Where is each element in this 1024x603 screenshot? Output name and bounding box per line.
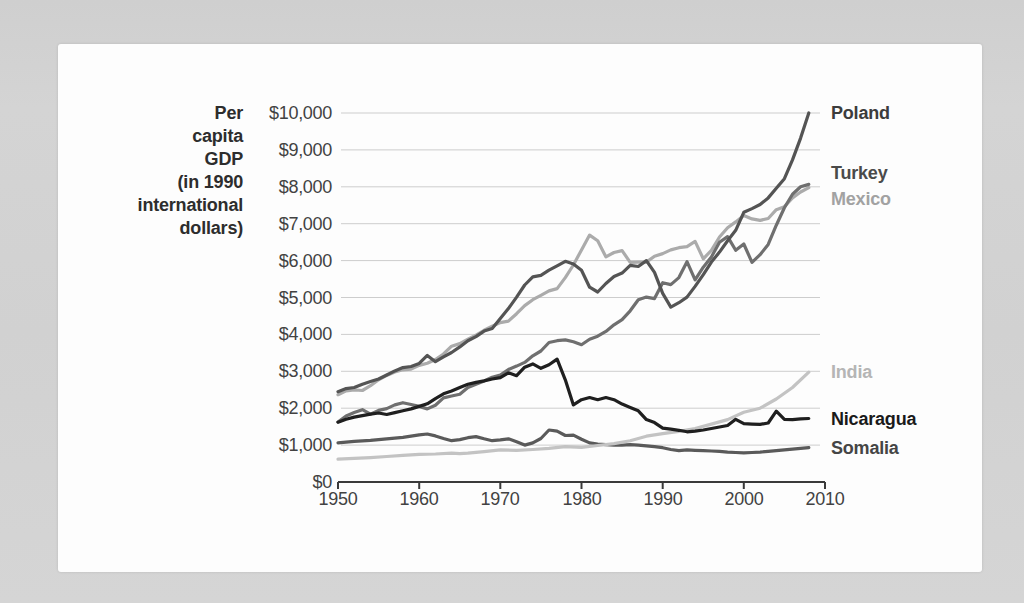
series-label-nicaragua: Nicaragua: [831, 408, 916, 430]
y-axis-title: Per capita GDP (in 1990 international do…: [63, 102, 243, 240]
series-label-poland: Poland: [831, 102, 890, 124]
y-axis-title-line: Per: [63, 102, 243, 125]
series-label-india: India: [831, 361, 872, 383]
y-tick-label: $2,000: [242, 397, 332, 419]
y-tick-label: $8,000: [242, 176, 332, 198]
y-tick-label: $4,000: [242, 323, 332, 345]
line-mexico: [338, 188, 809, 395]
series-label-turkey: Turkey: [831, 162, 888, 184]
y-axis-title-line: international: [63, 194, 243, 217]
y-tick-label: $1,000: [242, 434, 332, 456]
x-tick-label: 1980: [550, 489, 614, 509]
x-tick-label: 2000: [712, 489, 776, 509]
x-tick-label: 1950: [306, 489, 370, 509]
series-label-somalia: Somalia: [831, 437, 899, 459]
line-somalia: [338, 430, 809, 453]
y-axis-title-line: dollars): [63, 217, 243, 240]
line-poland: [338, 113, 809, 392]
x-tick-label: 2010: [793, 489, 857, 509]
y-tick-label: $10,000: [242, 102, 332, 124]
x-axis: [338, 482, 825, 489]
y-tick-label: $6,000: [242, 250, 332, 272]
y-axis-title-line: capita: [63, 125, 243, 148]
line-india: [338, 372, 809, 459]
x-tick-label: 1990: [631, 489, 695, 509]
y-tick-label: $5,000: [242, 287, 332, 309]
y-tick-label: $9,000: [242, 139, 332, 161]
y-tick-label: $7,000: [242, 213, 332, 235]
y-axis-title-line: (in 1990: [63, 171, 243, 194]
gridlines: [341, 113, 820, 445]
y-tick-label: $3,000: [242, 360, 332, 382]
series-label-mexico: Mexico: [831, 188, 891, 210]
x-tick-label: 1960: [387, 489, 451, 509]
gdp-line-chart: [0, 0, 1024, 603]
x-tick-label: 1970: [468, 489, 532, 509]
y-axis-title-line: GDP: [63, 148, 243, 171]
